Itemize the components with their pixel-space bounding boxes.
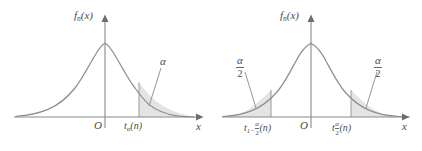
- x-axis-label: x: [402, 121, 407, 132]
- left-fraction-numerator: α: [236, 55, 244, 68]
- chart-panel-one-tailed: fn(x) O tα(n) α x: [0, 0, 211, 151]
- origin-label: O: [300, 120, 308, 131]
- critical-value-argument: (n): [130, 120, 142, 131]
- left-fraction-denominator: 2: [236, 68, 244, 79]
- right-tail-area-label: α 2: [374, 55, 382, 79]
- one-tailed-plot: [0, 0, 211, 151]
- y-axis-arrow-icon: [102, 15, 109, 23]
- right-critical-value-label: t α 2 (n): [332, 121, 351, 136]
- figure-root: fn(x) O tα(n) α x: [0, 0, 422, 151]
- critical-value-label: tα(n): [124, 121, 142, 133]
- left-alpha-over-two-fraction: α 2: [236, 55, 244, 79]
- right-critical-value-argument: (n): [339, 122, 351, 133]
- left-critical-value-sub-prefix: 1−: [247, 127, 255, 134]
- left-alpha-leader-line: [245, 72, 256, 108]
- origin-label: O: [94, 120, 102, 131]
- y-axis-label: fn(x): [74, 10, 93, 23]
- y-axis-label-argument: (x): [81, 9, 93, 21]
- left-tail-area-label: α 2: [236, 55, 244, 79]
- left-critical-value-argument: (n): [259, 122, 271, 133]
- right-fraction-denominator: 2: [374, 68, 382, 79]
- shaded-tail-region-alpha: [139, 83, 191, 118]
- x-axis-label: x: [196, 121, 201, 132]
- tail-area-label-alpha: α: [160, 56, 166, 67]
- y-axis-arrow-icon: [308, 15, 315, 23]
- y-axis-label: fn(x): [280, 10, 299, 23]
- left-critical-value-label: t1− α 2 (n): [244, 121, 271, 136]
- right-fraction-numerator: α: [374, 55, 382, 68]
- y-axis-label-argument: (x): [287, 9, 299, 21]
- chart-panel-two-tailed: fn(x) α 2 α 2 O t1− α 2 (n) t: [211, 0, 422, 151]
- right-alpha-over-two-fraction: α 2: [374, 55, 382, 79]
